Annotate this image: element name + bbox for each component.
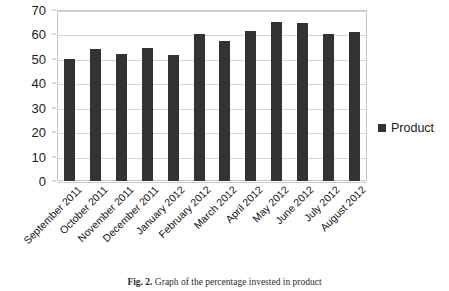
bar [245,31,256,181]
y-tick-mark-60 [52,34,56,35]
bar-chart: 010203040506070 September 2011October 20… [0,0,449,272]
y-tick-label-0: 0 [39,175,46,188]
bar [271,22,282,181]
figure-caption: Fig. 2. Graph of the percentage invested… [0,277,449,288]
y-tick-mark-0 [52,181,56,182]
y-tick-label-70: 70 [32,4,46,17]
caption-label: Fig. 2. [127,277,152,287]
y-tick-label-20: 20 [32,126,46,139]
x-axis: September 2011October 2011November 2011D… [57,182,367,272]
bar [64,59,75,181]
y-tick-mark-20 [52,132,56,133]
caption-text: Graph of the percentage invested in prod… [155,277,322,287]
y-tick-label-40: 40 [32,77,46,90]
y-axis: 010203040506070 [0,10,52,181]
y-tick-label-50: 50 [32,52,46,65]
bar [90,49,101,181]
bar [323,34,334,181]
y-tick-mark-70 [52,10,56,11]
y-tick-mark-30 [52,107,56,108]
bars-layer [57,10,367,181]
legend-swatch-product [378,124,386,132]
y-tick-label-30: 30 [32,101,46,114]
y-tick-mark-50 [52,58,56,59]
y-tick-mark-40 [52,83,56,84]
bar [219,41,230,181]
bar [168,55,179,181]
legend-label-product: Product [391,122,434,135]
bar [349,32,360,181]
bar [142,48,153,181]
bar [116,54,127,181]
chart-legend: Product [378,122,434,135]
bar [297,23,308,181]
y-tick-label-60: 60 [32,28,46,41]
y-tick-mark-10 [52,156,56,157]
y-tick-label-10: 10 [32,150,46,163]
bar [194,34,205,181]
figure-container: 010203040506070 September 2011October 20… [0,0,449,291]
